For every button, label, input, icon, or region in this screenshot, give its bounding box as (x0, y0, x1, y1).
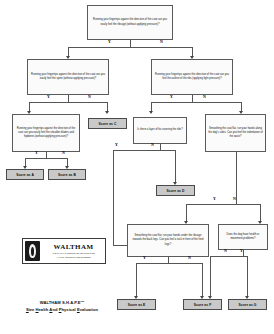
node-q6-text: Smoothing the coat flat, run your hands … (208, 127, 263, 139)
caption-line-2: Size Health And Physical Evaluation (8, 307, 116, 312)
connector-q3-bus (151, 102, 241, 103)
connector-q3-no-drop (241, 102, 242, 111)
node-q2-spine[interactable]: Running your fingertips against the dire… (27, 59, 109, 95)
connector-q2-yes-drop (29, 102, 30, 111)
caption-line-1: WALTHAM S.H.A.P.ETM (8, 300, 116, 305)
waltham-logo-text: WALTHAM THE WALTHAM CENTRE FOR PET NUTRI… (42, 243, 105, 259)
node-q5-fat-layer[interactable]: Is there a layer of fat covering the rib… (133, 117, 187, 144)
node-score-b[interactable]: Score as B (48, 169, 86, 180)
connector-q1-no-drop (192, 47, 193, 56)
connector-q8-no-drop (210, 256, 211, 296)
connector-q7-no-drop (202, 263, 203, 296)
branch-label-q6-no: N (233, 197, 236, 201)
node-q4-shoulder-hip[interactable]: Running your fingertips against the dire… (12, 114, 80, 152)
caption-shape-label: WALTHAM S.H.A.P.E (40, 300, 81, 305)
branch-label-q2-no: N (88, 95, 91, 99)
node-score-c-text: Score as C (99, 122, 117, 126)
node-q5-text: Is there a layer of fat covering the rib… (137, 128, 182, 132)
connector-q5-yes-drop (113, 150, 114, 245)
branch-label-q7-no: N (188, 256, 191, 260)
connector-q1-yes-drop (68, 47, 69, 56)
node-score-f-text: Score as F (194, 303, 211, 307)
node-q4-text: Running your fingertips against the dire… (15, 127, 77, 139)
arrow-q2-no (105, 111, 109, 114)
connector-q4-bus (25, 158, 67, 159)
waltham-logo-tagline-1: THE WALTHAM CENTRE FOR PET NUTRITION (42, 252, 105, 255)
connector-q2-no-drop (107, 102, 108, 111)
branch-label-q8-no: N (224, 249, 227, 253)
connector-q2-stem (68, 95, 69, 102)
connector-q2-bus (29, 102, 107, 103)
node-q7-tuck[interactable]: Smoothing the coat flat, run your hands … (127, 224, 209, 257)
connector-q8-bus (210, 256, 247, 257)
branch-label-q2-yes: Y (47, 95, 50, 99)
node-q1-ribcage[interactable]: Running your fingertips against the dire… (87, 5, 173, 40)
branch-label-q4-no: N (62, 151, 65, 155)
connector-q3-stem (192, 95, 193, 102)
connector-q7-yes-drop (136, 263, 137, 296)
waltham-emblem-icon (25, 241, 40, 261)
node-score-f[interactable]: Score as F (183, 299, 222, 310)
node-score-d[interactable]: Score as D (156, 185, 195, 196)
node-score-d-text: Score as D (167, 189, 185, 193)
branch-label-q1-no: N (160, 40, 163, 44)
waltham-logo-name: WALTHAM (42, 243, 105, 251)
node-q8-text: Does the dog have health or movement pro… (221, 233, 265, 241)
node-score-c[interactable]: Score as C (88, 118, 127, 129)
node-q3-text: Running your fingertips against the dire… (154, 73, 230, 81)
waltham-logo-tagline-2: A MARS, INCORPORATED BUSINESS (42, 256, 105, 259)
connector-q5-no-drop (175, 150, 176, 182)
connector-q6-no-drop (260, 204, 261, 221)
node-q8-health[interactable]: Does the dog have health or movement pro… (218, 224, 268, 250)
branch-label-q6-yes: Y (213, 197, 216, 201)
branch-label-q8-yes: Y (240, 249, 243, 253)
node-score-e-text: Score as E (128, 303, 146, 307)
connector-q4-yes-drop (25, 158, 26, 166)
branch-label-q3-yes: Y (170, 95, 173, 99)
arrow-q3-yes (149, 111, 153, 114)
branch-label-q1-yes: Y (108, 40, 111, 44)
connector-q5-bus (113, 150, 175, 151)
node-q7-text: Smoothing the coat flat, run your hands … (130, 234, 206, 246)
node-score-g-text: Score as G (238, 303, 256, 307)
node-score-e[interactable]: Score as E (117, 299, 156, 310)
connector-q6-bus (186, 204, 260, 205)
connector-q6-stem (236, 152, 237, 204)
node-q6-waist[interactable]: Smoothing the coat flat, run your hands … (205, 114, 266, 152)
node-q3-rib-outline[interactable]: Running your fingertips against the dire… (151, 59, 233, 95)
branch-label-q3-no: N (203, 95, 206, 99)
branch-label-q7-yes: Y (143, 256, 146, 260)
caption-trademark: TM (81, 300, 85, 303)
connector-q1-stem (130, 40, 131, 47)
node-score-a[interactable]: Score as A (6, 169, 44, 180)
node-score-b-text: Score as B (58, 173, 76, 177)
waltham-logo: WALTHAM THE WALTHAM CENTRE FOR PET NUTRI… (22, 238, 106, 264)
node-q1-text: Running your fingertips against the dire… (90, 18, 170, 26)
branch-label-q5-yes: Y (115, 143, 118, 147)
figure-caption: WALTHAM S.H.A.P.ETM Size Health And Phys… (8, 300, 116, 312)
connector-q3-yes-drop (151, 102, 152, 111)
connector-q4-no-drop (67, 158, 68, 166)
connector-q1-bus (68, 47, 192, 48)
node-q2-text: Running your fingertips against the dire… (30, 73, 106, 81)
node-score-a-text: Score as A (16, 173, 34, 177)
flowchart-canvas: Running your fingertips against the dire… (0, 0, 274, 334)
connector-q7-bus (136, 263, 202, 264)
branch-label-q5-no: N (151, 143, 154, 147)
connector-q6-yes-drop (186, 204, 187, 221)
branch-label-q4-yes: Y (35, 151, 38, 155)
node-score-g[interactable]: Score as G (228, 299, 267, 310)
connector-q8-yes-drop (247, 256, 248, 296)
